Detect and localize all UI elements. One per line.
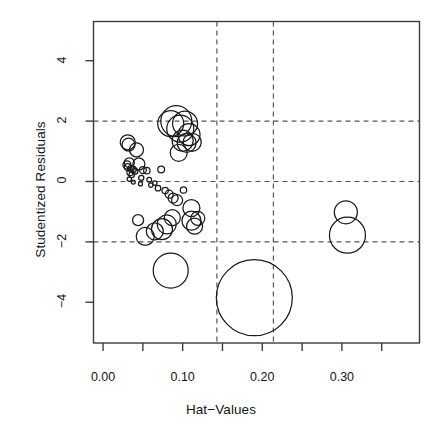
bubble-point bbox=[187, 218, 203, 234]
x-axis-title: Hat−Values bbox=[0, 402, 442, 417]
bubble-point bbox=[139, 175, 144, 180]
y-tick-label: 4 bbox=[55, 40, 69, 80]
axis-ticks-group bbox=[86, 61, 382, 351]
y-axis-title: Studentized Residuals bbox=[33, 60, 48, 320]
y-tick-label: 0 bbox=[55, 160, 69, 200]
x-tick-label: 0.20 bbox=[232, 370, 292, 384]
y-tick-label: −2 bbox=[55, 221, 69, 261]
bubble-point bbox=[127, 177, 131, 181]
bubble-point bbox=[131, 180, 135, 184]
x-tick-label: 0.00 bbox=[73, 370, 133, 384]
bubble-point bbox=[153, 253, 188, 288]
bubble-point bbox=[158, 166, 165, 173]
bubble-point bbox=[149, 183, 153, 187]
y-tick-label: −4 bbox=[55, 281, 69, 321]
bubble-point bbox=[216, 260, 292, 336]
bubble-point bbox=[138, 182, 142, 186]
y-tick-label: 2 bbox=[55, 100, 69, 140]
x-tick-label: 0.30 bbox=[312, 370, 372, 384]
bubble-point bbox=[155, 185, 161, 191]
bubble-point bbox=[133, 215, 144, 226]
bubble-point bbox=[164, 210, 180, 226]
x-tick-label: 0.10 bbox=[153, 370, 213, 384]
influence-plot-figure: Hat−Values Studentized Residuals 0.000.1… bbox=[0, 0, 442, 437]
bubble-points-group bbox=[120, 106, 365, 336]
bubble-point bbox=[329, 217, 365, 253]
bubble-point bbox=[180, 187, 186, 193]
